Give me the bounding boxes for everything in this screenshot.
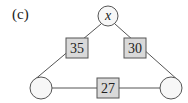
- edge-left-value: 35: [70, 41, 84, 56]
- top-node-label: x: [104, 8, 112, 23]
- bottom-right-node: [160, 77, 182, 99]
- triangle-diagram: x 35 30 27: [0, 0, 188, 103]
- edge-bottom-value: 27: [101, 81, 115, 96]
- bottom-left-node: [30, 77, 52, 99]
- edge-right-value: 30: [128, 41, 142, 56]
